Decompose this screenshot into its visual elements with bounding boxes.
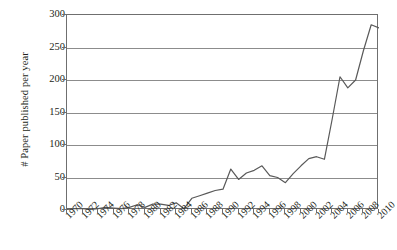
x-axis-tick-mark <box>300 209 301 213</box>
x-axis-tick-mark <box>128 209 129 213</box>
data-line-series <box>67 15 379 210</box>
x-axis-tick-mark <box>362 209 363 213</box>
x-axis-tick-mark <box>238 209 239 213</box>
x-axis-tick-mark <box>284 209 285 213</box>
x-axis-tick-mark <box>113 209 114 213</box>
y-axis-tick-label: 200 <box>25 74 65 84</box>
x-axis-tick-mark <box>222 209 223 213</box>
y-axis-tick-label: 0 <box>25 204 65 214</box>
y-axis-tick-label: 100 <box>25 139 65 149</box>
x-axis-tick-mark <box>331 209 332 213</box>
y-axis-tick-label: 300 <box>25 9 65 19</box>
x-axis-tick-mark <box>144 209 145 213</box>
x-axis-tick-mark <box>66 209 67 213</box>
y-axis-tick-label: 150 <box>25 107 65 117</box>
x-axis-tick-mark <box>206 209 207 213</box>
x-axis-tick-mark <box>175 209 176 213</box>
y-axis-tick-label: 250 <box>25 42 65 52</box>
x-axis-tick-mark <box>269 209 270 213</box>
x-axis-tick-mark <box>347 209 348 213</box>
x-axis-tick-mark <box>97 209 98 213</box>
series-polyline <box>67 25 379 210</box>
x-axis-tick-mark <box>316 209 317 213</box>
x-axis-tick-mark <box>82 209 83 213</box>
y-axis-tick-label: 50 <box>25 172 65 182</box>
chart-container: # Paper published per year 3002502001501… <box>0 0 397 250</box>
x-axis-tick-mark <box>191 209 192 213</box>
plot-area <box>66 14 378 209</box>
x-axis-tick-mark <box>160 209 161 213</box>
x-axis-tick-mark <box>253 209 254 213</box>
x-axis-tick-mark <box>378 209 379 213</box>
